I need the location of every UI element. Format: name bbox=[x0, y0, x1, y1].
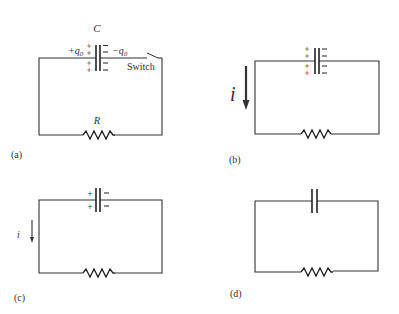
minus-charge-label: −q0 bbox=[112, 45, 128, 58]
resistor-icon bbox=[301, 130, 331, 138]
resistor-icon bbox=[83, 131, 115, 139]
resistor-label: R bbox=[93, 115, 101, 126]
plus-sign: + bbox=[86, 66, 91, 74]
resistor-icon bbox=[83, 269, 115, 277]
plus-sign: + bbox=[87, 190, 93, 198]
panel-label-b: (b) bbox=[229, 154, 241, 166]
panel-b: + + + + i (b) bbox=[229, 45, 379, 166]
current-arrowhead-icon bbox=[243, 100, 250, 110]
panel-c: + + i (c) bbox=[14, 188, 162, 304]
plus-sign: + bbox=[87, 203, 93, 211]
panel-c-wire bbox=[100, 200, 162, 273]
current-label: i bbox=[230, 83, 236, 105]
plus-sign: + bbox=[86, 49, 91, 57]
capacitor-label: C bbox=[93, 22, 101, 34]
panel-label-a: (a) bbox=[11, 149, 22, 161]
switch-icon bbox=[147, 53, 158, 58]
panel-d-wire bbox=[255, 201, 312, 272]
panel-d: (d) bbox=[230, 189, 378, 300]
current-label: i bbox=[17, 229, 20, 240]
rc-discharge-figure: + + + + C +q0 −q0 Switch R (a) + + + + bbox=[0, 0, 399, 314]
panel-b-wire bbox=[319, 61, 379, 134]
plus-charge-label: +q0 bbox=[68, 45, 84, 58]
panel-d-wire bbox=[317, 201, 378, 271]
plus-sign: + bbox=[304, 69, 309, 77]
panel-label-d: (d) bbox=[230, 288, 242, 300]
plus-sign: + bbox=[304, 52, 309, 60]
panel-a: + + + + C +q0 −q0 Switch R (a) bbox=[11, 22, 162, 161]
current-arrowhead-icon bbox=[30, 237, 34, 243]
panel-label-c: (c) bbox=[14, 292, 25, 304]
resistor-icon bbox=[301, 268, 333, 276]
switch-label: Switch bbox=[127, 61, 155, 72]
